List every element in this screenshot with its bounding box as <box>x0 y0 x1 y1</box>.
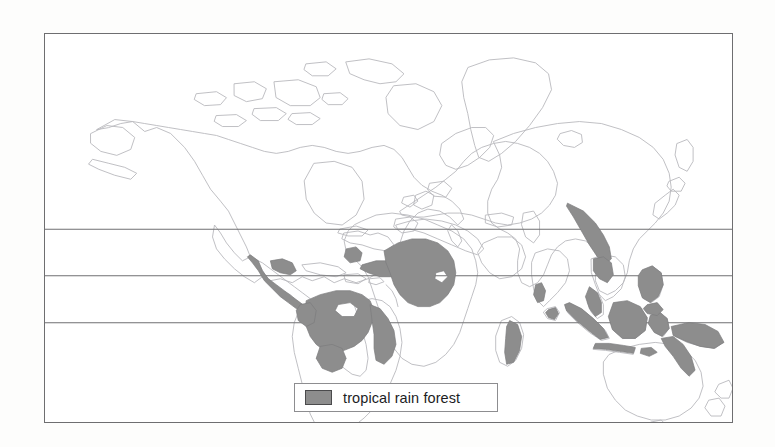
rainforest-indochina-lower <box>593 257 613 283</box>
rainforest-malay-peninsula <box>585 287 601 317</box>
coastline-kamchatka <box>675 139 693 171</box>
coastline-europe <box>400 141 558 225</box>
rainforest-sumatra <box>564 303 608 340</box>
coastline-hudson-bay <box>304 161 364 225</box>
coastline-new-zealand-north <box>715 380 732 398</box>
coastline-lake-superior <box>338 226 368 236</box>
coastline-japan <box>653 189 679 219</box>
rainforest-mexico-south <box>270 259 296 275</box>
rainforest-indochina <box>566 203 611 265</box>
legend-label-rainforest: tropical rain forest <box>343 390 460 406</box>
map-frame: tropical rain forest <box>44 33 733 423</box>
coastline-caspian-sea <box>522 211 540 243</box>
rainforest-western-ghats <box>534 283 546 303</box>
rainforest-brazil-atlantic-coast <box>370 305 396 365</box>
coastline-iceland <box>558 131 583 148</box>
coastline-greenland <box>462 58 552 161</box>
world-map-svg <box>45 34 732 422</box>
rainforest-amazon-lower <box>316 344 346 372</box>
coastline-ellesmere <box>346 59 404 84</box>
coastline-puerto-rico <box>369 278 384 285</box>
coastline-black-sea <box>486 213 514 227</box>
coastline-arctic-isle-3 <box>252 108 286 121</box>
coastline-alaska <box>91 126 135 156</box>
coastline-arctic-isle-2 <box>195 92 227 106</box>
rainforest-bali-nusa <box>640 347 657 356</box>
coastline-aleutians <box>89 159 137 179</box>
coastline-new-zealand-south <box>705 398 725 416</box>
coastline-scandinavia <box>440 128 494 170</box>
coastline-victoria <box>274 80 320 106</box>
rainforest-west-africa-west <box>344 247 362 263</box>
coastline-cuba <box>302 263 346 277</box>
rainforest-philippines <box>638 266 663 303</box>
coastline-baffin <box>386 84 442 130</box>
coastline-arctic-isle-4 <box>288 113 320 125</box>
rainforest-madagascar-east-coast <box>505 321 522 365</box>
coastline-arctic-isle-5 <box>322 93 348 105</box>
coastline-asia <box>488 122 671 295</box>
figure-root: tropical rain forest <box>0 0 775 447</box>
legend-box: tropical rain forest <box>294 383 498 412</box>
rainforest-borneo <box>608 301 647 339</box>
legend-swatch-rainforest <box>305 390 332 405</box>
coastline-arctic-isle-1 <box>304 62 336 76</box>
coastline-banks <box>234 82 266 102</box>
coastline-arctic-isle-6 <box>215 115 247 127</box>
